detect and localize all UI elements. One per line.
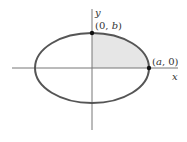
ellipse-diagram: y x (0, b) (a, 0) xyxy=(0,0,187,142)
point-label-a-0: (a, 0) xyxy=(152,56,179,67)
point-0-b xyxy=(90,31,94,35)
point-label-0-b: (0, b) xyxy=(95,20,122,31)
point-a-0 xyxy=(147,66,151,70)
y-axis-label: y xyxy=(94,7,101,18)
x-axis-label: x xyxy=(172,71,178,82)
